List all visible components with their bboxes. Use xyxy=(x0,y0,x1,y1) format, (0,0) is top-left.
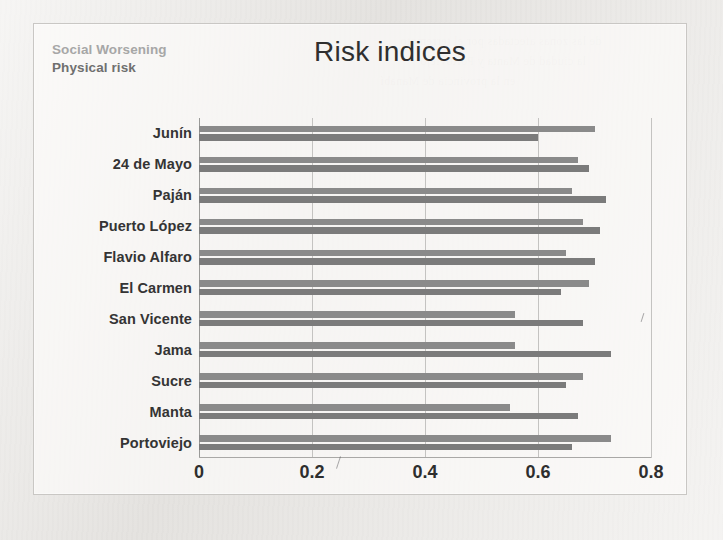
bar-physical-risk[interactable] xyxy=(199,258,595,265)
bar-social-worsening[interactable] xyxy=(199,404,510,411)
category-label: San Vicente xyxy=(48,303,198,334)
bar-group xyxy=(199,242,651,273)
category-label: Puerto López xyxy=(48,211,198,242)
bar-group xyxy=(199,118,651,149)
bar-group xyxy=(199,334,651,365)
chart-frame: Social Worsening Physical risk Risk indi… xyxy=(33,23,687,495)
bar-physical-risk[interactable] xyxy=(199,289,561,296)
plot-wrapper: Junín24 de MayoPajánPuerto LópezFlavio A… xyxy=(34,24,686,494)
bar-physical-risk[interactable] xyxy=(199,413,578,420)
bar-social-worsening[interactable] xyxy=(199,311,515,318)
x-axis-line xyxy=(199,457,651,458)
category-axis: Junín24 de MayoPajánPuerto LópezFlavio A… xyxy=(48,118,198,458)
bar-physical-risk[interactable] xyxy=(199,351,611,358)
bar-social-worsening[interactable] xyxy=(199,157,578,164)
category-label: Paján xyxy=(48,180,198,211)
bar-social-worsening[interactable] xyxy=(199,280,589,287)
bar-social-worsening[interactable] xyxy=(199,126,595,133)
bar-group xyxy=(199,273,651,304)
x-axis-ticks: 00.20.40.60.8 xyxy=(199,462,651,492)
bar-group xyxy=(199,303,651,334)
category-label: Portoviejo xyxy=(48,427,198,458)
page-background: de las zonas afectadas por el terremoto … xyxy=(0,0,723,540)
bar-group xyxy=(199,180,651,211)
bar-physical-risk[interactable] xyxy=(199,196,606,203)
x-tick-label: 0 xyxy=(194,462,204,483)
x-tick-label: 0.6 xyxy=(525,462,550,483)
category-label: Flavio Alfaro xyxy=(48,242,198,273)
category-label: Jama xyxy=(48,334,198,365)
bar-physical-risk[interactable] xyxy=(199,227,600,234)
category-label: Manta xyxy=(48,396,198,427)
x-tick-label: 0.2 xyxy=(299,462,324,483)
bar-social-worsening[interactable] xyxy=(199,435,611,442)
bar-group xyxy=(199,427,651,458)
bar-physical-risk[interactable] xyxy=(199,165,589,172)
bar-group xyxy=(199,211,651,242)
x-tick-label: 0.8 xyxy=(638,462,663,483)
category-label: El Carmen xyxy=(48,273,198,304)
plot-area xyxy=(199,118,651,458)
bar-series-container xyxy=(199,118,651,458)
bar-social-worsening[interactable] xyxy=(199,342,515,349)
gridline xyxy=(651,118,652,458)
bar-social-worsening[interactable] xyxy=(199,373,583,380)
bar-physical-risk[interactable] xyxy=(199,444,572,451)
bar-group xyxy=(199,396,651,427)
bar-group xyxy=(199,365,651,396)
category-label: 24 de Mayo xyxy=(48,149,198,180)
bar-social-worsening[interactable] xyxy=(199,219,583,226)
category-label: Sucre xyxy=(48,365,198,396)
bar-group xyxy=(199,149,651,180)
category-label: Junín xyxy=(48,118,198,149)
bar-social-worsening[interactable] xyxy=(199,250,566,257)
bar-physical-risk[interactable] xyxy=(199,134,538,141)
bar-social-worsening[interactable] xyxy=(199,188,572,195)
bar-physical-risk[interactable] xyxy=(199,320,583,327)
bar-physical-risk[interactable] xyxy=(199,382,566,389)
x-tick-label: 0.4 xyxy=(412,462,437,483)
